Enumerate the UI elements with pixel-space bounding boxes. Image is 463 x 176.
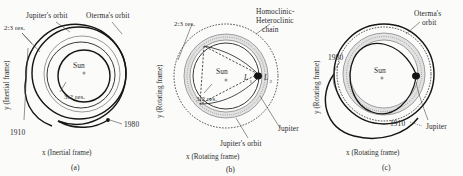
leader-otermas-orbit	[112, 22, 122, 34]
panel-b-y-axis-label: y (Rotating frame)	[156, 64, 164, 118]
label-res-32: 3:2 res.	[196, 95, 217, 102]
label-jupiters-orbit: Jupiter's orbit	[220, 139, 262, 148]
panel-b-x-axis-label: x (Rotating frame)	[186, 153, 240, 161]
label-l1: L	[243, 73, 248, 82]
panel-a: Jupiter's orbit Oterma's orbit 2:3 res. …	[0, 0, 155, 176]
label-chain-line1: Homoclinic-	[256, 7, 295, 16]
endpoint-1980-marker	[106, 118, 110, 122]
orbit-tail-1910	[25, 78, 52, 126]
orbital-dynamics-figure: Jupiter's orbit Oterma's orbit 2:3 res. …	[0, 0, 463, 176]
label-jupiter: Jupiter	[426, 122, 447, 131]
sun-marker	[381, 77, 384, 80]
sun-marker	[83, 72, 86, 75]
label-jupiter: Jupiter	[278, 124, 299, 133]
label-jupiters-orbit: Jupiter's orbit	[26, 11, 68, 20]
label-otermas-orbit-line2: orbit	[422, 18, 437, 27]
label-sun: Sun	[374, 66, 386, 75]
panel-b-orbits	[174, 24, 278, 128]
panel-a-y-axis-label: y (Inertial frame)	[3, 60, 11, 110]
label-year-1980: 1980	[124, 120, 139, 129]
sun-marker	[225, 79, 228, 82]
panel-b-caption: (b)	[226, 165, 235, 174]
label-sun: Sun	[216, 67, 228, 76]
panel-b-plot: Homoclinic- Heteroclinic chain 2:3 res. …	[152, 0, 312, 176]
panel-c: Oterma's orbit 1980 Sun 1910 Jupiter y (…	[310, 0, 463, 176]
label-otermas-orbit: Oterma's orbit	[86, 11, 130, 20]
label-sun: Sun	[73, 61, 85, 70]
panel-a-x-axis-label: x (Inertial frame)	[42, 149, 92, 157]
panel-a-plot: Jupiter's orbit Oterma's orbit 2:3 res. …	[0, 0, 155, 176]
label-otermas-orbit-line1: Oterma's	[414, 9, 441, 18]
panel-c-plot: Oterma's orbit 1980 Sun 1910 Jupiter y (…	[310, 0, 463, 176]
panel-a-orbits	[25, 24, 126, 127]
label-res-23: 2:3 res.	[4, 24, 25, 31]
jupiter-marker	[412, 73, 420, 80]
panel-c-orbits	[325, 24, 434, 138]
oterma-outer-orbit-2	[26, 24, 126, 124]
panel-a-caption: (a)	[71, 163, 80, 172]
panel-b: Homoclinic- Heteroclinic chain 2:3 res. …	[152, 0, 312, 176]
panel-c-y-axis-label: y (Rotating frame)	[313, 60, 321, 114]
label-l2-subscript: 2	[270, 79, 273, 84]
label-chain-line2: Heteroclinic	[256, 16, 294, 25]
label-year-1980: 1980	[328, 53, 343, 62]
leader-jupiters-orbit	[236, 118, 248, 138]
label-res-32: 3:2 res.	[64, 93, 85, 100]
label-year-1910: 1910	[10, 128, 25, 137]
panel-c-caption: (c)	[382, 163, 391, 172]
label-chain-line3: chain	[262, 25, 279, 34]
jupiters-orbit-curve	[44, 36, 120, 112]
label-res-23: 2:3 res.	[174, 20, 195, 27]
leader-otermas-orbit	[406, 22, 420, 34]
label-l2: L	[263, 73, 268, 82]
label-year-1910: 1910	[390, 119, 405, 128]
label-l1-subscript: 1	[250, 79, 253, 84]
jupiter-marker	[254, 73, 262, 80]
leader-1980	[110, 120, 122, 124]
panel-c-x-axis-label: x (Rotating frame)	[346, 149, 400, 157]
oterma-outer-orbit-1	[32, 27, 126, 119]
